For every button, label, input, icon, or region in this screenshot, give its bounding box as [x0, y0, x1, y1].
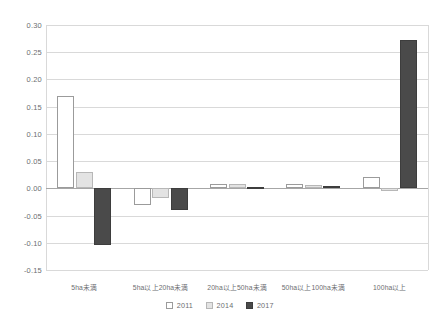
y-axis-tick-label: 0.00: [2, 184, 42, 193]
y-axis-tick-label: 0.15: [2, 102, 42, 111]
bar-chart: 0.300.250.200.150.100.050.00-0.05-0.10-0…: [0, 0, 440, 323]
plot-right-border: [428, 25, 429, 270]
gridline: [46, 270, 428, 271]
bar-2011-4[interactable]: [363, 177, 380, 188]
y-axis-tick-label: 0.10: [2, 129, 42, 138]
legend-item-2011[interactable]: 2011: [166, 301, 193, 310]
plot-area: [46, 25, 428, 270]
x-axis-category-label: 100ha以上: [373, 282, 407, 292]
x-axis-category-label: 5ha未満: [71, 282, 97, 292]
x-axis-category-label: 50ha以上100ha未満: [282, 282, 345, 292]
y-axis-tick-label: 0.30: [2, 21, 42, 30]
y-axis-tick-label: -0.05: [2, 211, 42, 220]
legend-swatch-icon: [246, 302, 253, 309]
legend-label: 2017: [257, 301, 274, 310]
y-axis-tick-label: -0.10: [2, 238, 42, 247]
bar-2014-4[interactable]: [381, 188, 398, 191]
legend-swatch-icon: [206, 302, 213, 309]
legend-item-2014[interactable]: 2014: [206, 301, 233, 310]
y-axis-tick-label: -0.15: [2, 266, 42, 275]
bar-group: [46, 25, 428, 270]
x-axis-category-label: 5ha以上20ha未満: [133, 282, 189, 292]
y-axis-tick-label: 0.25: [2, 48, 42, 57]
legend-label: 2014: [217, 301, 234, 310]
legend-label: 2011: [177, 301, 193, 310]
chart-legend: 201120142017: [0, 301, 440, 310]
x-axis-category-label: 20ha以上50ha未満: [207, 282, 266, 292]
y-axis-tick-label: 0.20: [2, 75, 42, 84]
legend-item-2017[interactable]: 2017: [246, 301, 273, 310]
legend-swatch-icon: [166, 302, 173, 309]
bar-2017-4[interactable]: [400, 40, 417, 188]
y-axis-tick-label: 0.05: [2, 157, 42, 166]
